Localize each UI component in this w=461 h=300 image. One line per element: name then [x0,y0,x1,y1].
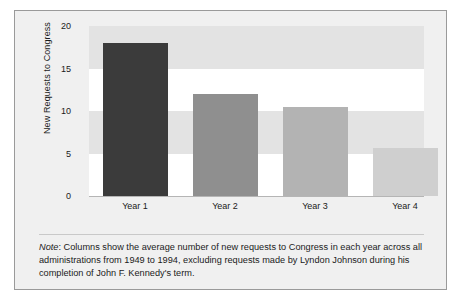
chart-region: New Requests to Congress 20 15 10 5 0 Ye… [15,11,448,233]
y-tick-label: 20 [45,21,71,31]
bar-year-1[interactable] [103,43,168,196]
x-tick-label-year-3: Year 3 [302,201,328,211]
y-axis-tick-labels: 20 15 10 5 0 [45,11,71,233]
plot-area [89,26,424,196]
note-divider [39,234,424,235]
y-tick-label: 0 [45,191,71,201]
bar-series [89,26,424,196]
x-tick-label-year-4: Year 4 [392,201,418,211]
bar-year-4[interactable] [373,148,438,196]
x-tick-label-year-1: Year 1 [122,201,148,211]
x-axis-baseline [89,196,424,197]
y-tick-label: 10 [45,106,71,116]
x-axis-tick-labels: Year 1 Year 2 Year 3 Year 4 [89,201,424,217]
bar-year-3[interactable] [283,107,348,196]
x-tick-label-year-2: Year 2 [212,201,238,211]
note-label: Note [39,242,58,252]
note-text: : Columns show the average number of new… [39,242,422,278]
figure-note: Note: Columns show the average number of… [39,241,429,280]
bar-year-2[interactable] [193,94,258,196]
figure-frame: New Requests to Congress 20 15 10 5 0 Ye… [14,10,447,290]
y-tick-label: 15 [45,64,71,74]
y-tick-label: 5 [45,149,71,159]
